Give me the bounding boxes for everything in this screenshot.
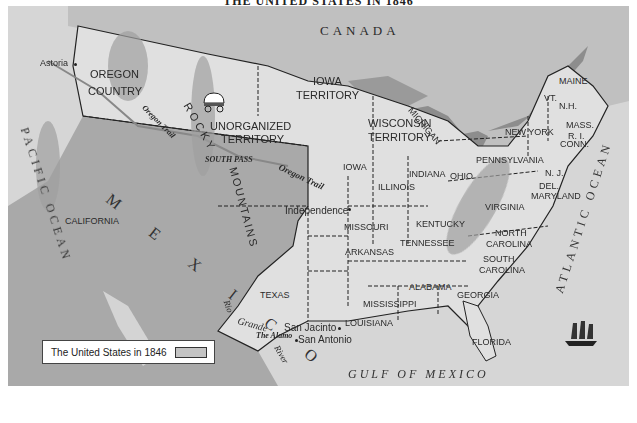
label-alabama: ALABAMA [409,283,452,292]
label-indiana: INDIANA [409,170,446,179]
label-astoria: Astoria [40,59,68,68]
label-california: CALIFORNIA [65,217,119,226]
label-kentucky: KENTUCKY [416,220,465,229]
label-tennessee: TENNESSEE [400,239,455,248]
label-virginia: VIRGINIA [485,203,525,212]
label-iowa-terr-2: TERRITORY [296,90,359,101]
label-mississippi: MISSISSIPPI [363,300,417,309]
label-mass: MASS. [566,121,594,130]
sailing-ship-icon [563,319,599,347]
san-jacinto-marker [338,327,341,330]
legend-swatch [175,347,207,358]
map-legend: The United States in 1846 [42,340,215,364]
label-conn: CONN. [560,140,589,149]
label-independence: Independence [285,206,348,216]
label-unorganized-2: TERRITORY [221,134,284,145]
label-missouri: MISSOURI [344,223,389,232]
label-san-antonio: San Antonio [298,335,352,345]
label-iowa: IOWA [343,163,367,172]
label-iowa-terr-1: IOWA [313,76,342,87]
label-nc-1: NORTH [495,229,527,238]
label-maine: MAINE [559,77,588,86]
map-canvas: CANADA OREGON COUNTRY UNORGANIZED TERRIT… [8,6,629,386]
label-arkansas: ARKANSAS [345,248,394,257]
label-louisiana: LOUISIANA [345,319,393,328]
label-wisc-terr-2: TERRITORY [368,132,431,143]
label-sc-2: CAROLINA [479,266,525,275]
label-del: DEL. [539,182,559,191]
label-gulf-of-mexico: GULF OF MEXICO [348,368,489,380]
label-maryland: MARYLAND [531,192,581,201]
label-nc-2: CAROLINA [486,240,532,249]
label-the-alamo: The Alamo [256,332,292,340]
label-ohio: OHIO [450,172,473,181]
covered-wagon-icon [201,91,227,113]
label-pennsylvania: PENNSYLVANIA [476,156,544,165]
independence-marker [348,208,351,211]
san-antonio-marker [295,339,298,342]
label-south-pass: SOUTH PASS [205,156,253,164]
label-new-york: NEW YORK [505,128,554,137]
label-texas: TEXAS [260,291,290,300]
label-oregon-1: OREGON [90,69,139,80]
label-oregon-2: COUNTRY [88,86,142,97]
label-sc-1: SOUTH [483,255,515,264]
label-nh: N.H. [559,102,577,111]
label-illinois: ILLINOIS [378,183,415,192]
label-florida: FLORIDA [472,338,511,347]
label-unorganized-1: UNORGANIZED [210,121,291,132]
legend-label: The United States in 1846 [51,347,167,358]
label-georgia: GEORGIA [457,291,499,300]
astoria-marker [74,63,77,66]
label-canada: CANADA [320,24,400,37]
label-vt: VT. [544,94,557,103]
label-nj: N. J. [545,169,564,178]
